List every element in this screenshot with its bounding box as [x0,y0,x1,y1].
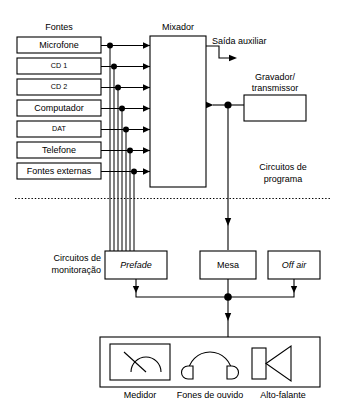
source-box-label: DAT [52,124,66,133]
recorder-label-line1: Gravador/ [255,72,296,82]
recorder-box-rect [244,95,306,121]
source-box-label: Computador [34,103,84,113]
mixer-title: Mixador [162,22,194,32]
aux-output-label: Saída auxiliar [212,36,267,46]
source-box-computador: Computador [17,100,101,116]
source-box-label: CD 1 [51,61,67,70]
source-box-label: Microfone [39,40,79,50]
recorder-box: Gravador/ transmissor [244,72,306,121]
source-box-dat: DAT [17,121,101,137]
sources-title: Fontes [45,22,73,32]
audio-signal-flow-diagram: Fontes Microfone CD 1 CD 2 Computador DA… [0,0,338,417]
source-box-label: Telefone [42,145,76,155]
monitoring-circuits-label-line2: monitoração [51,265,101,275]
monitor-box-label: Mesa [217,260,239,270]
vu-meter-icon [110,344,170,380]
mixer-input-arrowheads [143,42,150,174]
source-box-cd1: CD 1 [17,58,101,74]
monitor-box-prefade: Prefade [105,251,167,279]
monitor-bus-wires [133,279,297,337]
device-label-alto-falante: Alto-falante [260,390,306,400]
source-box-fontes-externas: Fontes externas [17,163,101,179]
device-label-medidor: Medidor [124,390,157,400]
monitor-box-mesa: Mesa [200,251,256,279]
device-label-fones: Fones de ouvido [177,390,244,400]
source-box-label: Fontes externas [27,166,92,176]
monitoring-circuits-label-line1: Circuitos de [53,253,101,263]
monitor-box-offair: Off air [268,251,320,279]
aux-output-branch [206,46,237,61]
mixer-box [150,36,206,187]
program-circuits-label-line1: Circuitos de [259,162,307,172]
source-box-microfone: Microfone [17,37,101,53]
program-circuits-label-line2: programa [264,174,303,184]
source-box-cd2: CD 2 [17,79,101,95]
source-box-telefone: Telefone [17,142,101,158]
recorder-label-line2: transmissor [252,83,299,93]
monitor-box-label: Prefade [120,260,152,270]
monitor-box-label: Off air [282,260,308,270]
source-box-label: CD 2 [51,82,67,91]
program-output-wires [206,101,244,250]
